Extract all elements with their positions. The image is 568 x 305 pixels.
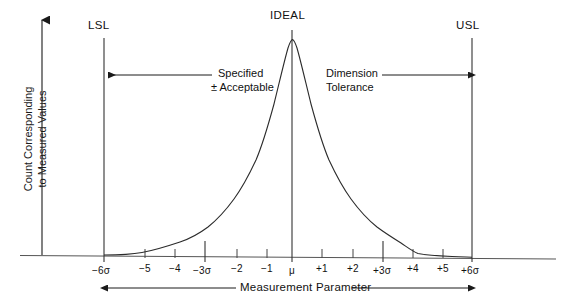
x-tick-label-minus4: −4: [169, 262, 181, 275]
x-axis-title: Measurement Parameter: [240, 281, 371, 294]
distribution-curve: [104, 40, 472, 258]
x-tick-label-plus6sigma: +6σ: [461, 264, 479, 277]
x-tick-label-minus5: −5: [139, 262, 151, 275]
y-axis-title-line1: Count Corresponding: [21, 59, 35, 219]
x-tick-label-minus6sigma: −6σ: [92, 264, 110, 277]
x-axis-baseline: [20, 256, 556, 260]
specified-acceptable-line2: ± Acceptable: [211, 80, 274, 94]
specified-acceptable-line1: Specified: [218, 66, 263, 80]
process-capability-chart: LSL IDEAL USL Specified ± Acceptable Dim…: [0, 0, 568, 305]
x-axis-major-ticks: [205, 241, 383, 262]
x-tick-label-plus1: +1: [316, 262, 328, 275]
x-tick-label-minus2: −2: [231, 262, 243, 275]
x-tick-label-plus3sigma: +3σ: [373, 264, 391, 277]
x-tick-label-plus4: +4: [407, 262, 419, 275]
x-tick-label-mu: μ: [289, 264, 295, 277]
x-tick-label-plus5: +5: [437, 262, 449, 275]
y-axis-title-line2: to Measured Values: [35, 59, 49, 219]
lsl-label: LSL: [88, 19, 110, 32]
ideal-label: IDEAL: [270, 9, 305, 22]
x-tick-label-plus2: +2: [347, 262, 359, 275]
dimension-tolerance-line2: Tolerance: [326, 80, 374, 94]
usl-label: USL: [456, 19, 480, 32]
chart-canvas: [0, 0, 568, 305]
x-tick-label-minus3sigma: −3σ: [193, 264, 211, 277]
x-tick-label-minus1: −1: [261, 262, 273, 275]
dimension-tolerance-line1: Dimension: [326, 66, 378, 80]
